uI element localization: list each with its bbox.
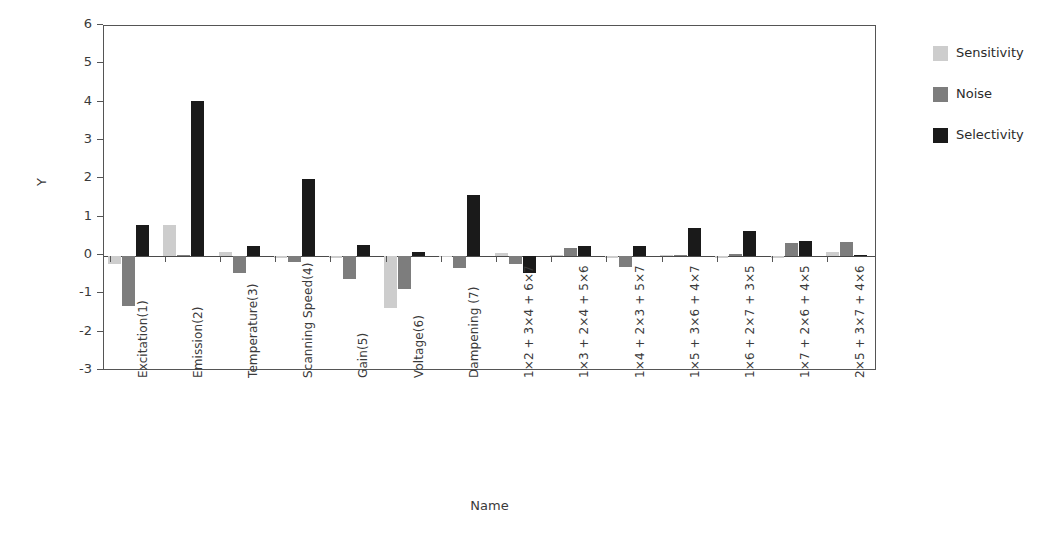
legend-swatch-icon: [933, 46, 948, 61]
bar: [564, 248, 577, 256]
bar: [729, 254, 742, 256]
bar: [840, 242, 853, 256]
x-tick-mark: [441, 256, 442, 262]
x-tick-label: 1×7 + 2×6 + 4×5: [798, 265, 812, 378]
y-tick-label: 2: [84, 169, 92, 184]
bar: [619, 256, 632, 267]
x-tick-mark: [717, 256, 718, 262]
bar: [799, 241, 812, 256]
legend-swatch-icon: [933, 128, 948, 143]
y-tick-label: -2: [79, 323, 92, 338]
bar: [578, 246, 591, 256]
x-tick-label: Voltage(6): [412, 315, 426, 378]
x-tick-label: 1×3 + 2×4 + 5×6: [577, 265, 591, 378]
bar-group-bars: [491, 26, 546, 369]
y-tick-label: 4: [84, 93, 92, 108]
bar-group: [601, 26, 656, 369]
y-tick-label: 5: [84, 54, 92, 69]
x-tick-mark: [165, 256, 166, 262]
y-tick-label: -1: [79, 284, 92, 299]
chart-figure: Y 6543210-1-2-3 Excitation(1)Emission(2)…: [0, 0, 1046, 542]
x-tick-mark: [275, 256, 276, 262]
bar-group: [214, 26, 269, 369]
x-tick-label: 1×5 + 3×6 + 4×7: [688, 265, 702, 378]
bar-group-bars: [435, 26, 490, 369]
bar: [136, 225, 149, 256]
bar: [122, 256, 135, 306]
bar: [288, 256, 301, 262]
bar: [453, 256, 466, 268]
y-tick-label: 3: [84, 131, 92, 146]
bar: [177, 255, 190, 256]
bar: [302, 179, 315, 256]
x-tick-mark: [330, 256, 331, 262]
x-tick-label: 1×2 + 3×4 + 6×7: [522, 265, 536, 378]
x-tick-label: Dampening (7): [467, 286, 481, 378]
x-tick-label: Temperature(3): [246, 284, 260, 378]
bar-group: [546, 26, 601, 369]
x-tick-mark: [496, 256, 497, 262]
bar-group: [104, 26, 159, 369]
bar: [357, 245, 370, 257]
bar: [191, 101, 204, 256]
bar: [674, 255, 687, 256]
y-tick-label: 6: [84, 16, 92, 31]
bar-group-bars: [711, 26, 766, 369]
bar-group-bars: [601, 26, 656, 369]
bar: [412, 252, 425, 256]
bar-group: [656, 26, 711, 369]
bar: [384, 256, 397, 308]
y-axis-title: Y: [34, 178, 49, 186]
x-tick-label: Emission(2): [191, 307, 205, 379]
bar: [247, 246, 260, 256]
bar-group-bars: [159, 26, 214, 369]
bar-group-bars: [214, 26, 269, 369]
x-tick-mark: [772, 256, 773, 262]
x-tick-mark: [110, 256, 111, 262]
bar-group-bars: [380, 26, 435, 369]
bar-group: [767, 26, 822, 369]
plot-area: [103, 25, 876, 370]
bar-group-bars: [270, 26, 325, 369]
bar: [398, 256, 411, 289]
bar: [163, 225, 176, 256]
bar-group: [711, 26, 766, 369]
x-tick-label: 1×4 + 2×3 + 5×7: [633, 265, 647, 378]
bar-group: [270, 26, 325, 369]
y-tick-label: 0: [84, 246, 92, 261]
x-tick-mark: [662, 256, 663, 262]
bar: [633, 246, 646, 256]
x-tick-mark: [827, 256, 828, 262]
bar-group: [325, 26, 380, 369]
bar: [467, 195, 480, 256]
x-tick-mark: [551, 256, 552, 262]
x-tick-label: 2×5 + 3×7 + 4×6: [853, 265, 867, 378]
x-tick-label: 1×6 + 2×7 + 3×5: [743, 265, 757, 378]
bar: [343, 256, 356, 279]
x-tick-mark: [386, 256, 387, 262]
legend-label: Selectivity: [956, 127, 1024, 142]
bar: [854, 255, 867, 256]
bar-group-bars: [656, 26, 711, 369]
bar: [509, 256, 522, 264]
y-tick-label: 1: [84, 208, 92, 223]
bar-group: [822, 26, 877, 369]
bar-group-bars: [104, 26, 159, 369]
x-tick-label: Scanning Speed(4): [301, 263, 315, 378]
x-tick-mark: [220, 256, 221, 262]
bar: [785, 243, 798, 256]
bar-group-bars: [767, 26, 822, 369]
bar-group-bars: [822, 26, 877, 369]
x-tick-label: Excitation(1): [136, 300, 150, 378]
bar-group: [491, 26, 546, 369]
bar-group: [159, 26, 214, 369]
bar-group: [380, 26, 435, 369]
bar: [688, 228, 701, 256]
bar: [233, 256, 246, 273]
bar-group-bars: [325, 26, 380, 369]
y-tick-label: -3: [79, 361, 92, 376]
legend-label: Noise: [956, 86, 992, 101]
x-axis-title: Name: [103, 498, 876, 513]
legend-swatch-icon: [933, 87, 948, 102]
bar-group-bars: [546, 26, 601, 369]
